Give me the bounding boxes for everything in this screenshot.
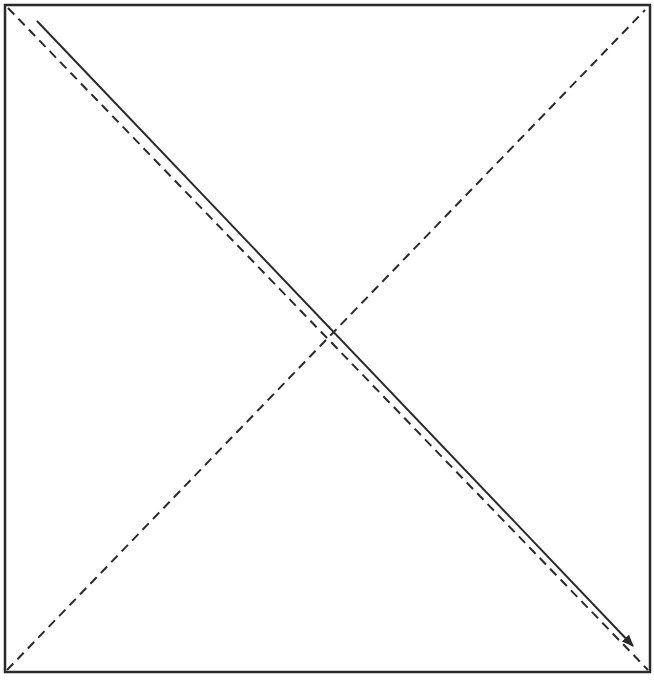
diagram bbox=[0, 0, 654, 700]
diagram-canvas bbox=[0, 0, 654, 700]
dashed-diagonal-bottom-left-to-top-right bbox=[7, 10, 645, 670]
